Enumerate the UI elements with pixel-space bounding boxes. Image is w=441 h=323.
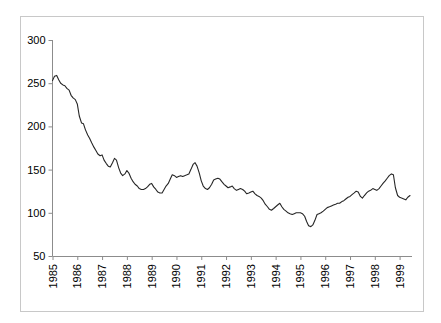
y-tick-label: 200 — [27, 120, 45, 132]
x-tick-label: 1994 — [270, 264, 282, 288]
y-tick-label: 150 — [27, 164, 45, 176]
line-chart: 50100150200250300 1985198619871988198919… — [0, 0, 441, 323]
x-tick-label: 1986 — [71, 264, 83, 288]
x-tick-label: 1991 — [195, 264, 207, 288]
x-tick-label: 1985 — [47, 264, 59, 288]
y-tick-label: 250 — [27, 77, 45, 89]
x-axis-tick-labels: 1985198619871988198919901991199219931994… — [47, 264, 406, 288]
x-tick-label: 1989 — [146, 264, 158, 288]
x-tick-label: 1992 — [220, 264, 232, 288]
x-tick-label: 1988 — [121, 264, 133, 288]
data-series-line — [53, 75, 411, 226]
y-axis-ticks — [49, 41, 53, 257]
x-tick-label: 1997 — [344, 264, 356, 288]
y-tick-label: 300 — [27, 34, 45, 46]
y-tick-label: 50 — [33, 250, 45, 262]
x-tick-label: 1987 — [96, 264, 108, 288]
axes-group — [53, 40, 413, 257]
y-axis-tick-labels: 50100150200250300 — [27, 34, 45, 262]
x-tick-label: 1993 — [245, 264, 257, 288]
x-tick-label: 1990 — [170, 264, 182, 288]
x-tick-label: 1999 — [394, 264, 406, 288]
x-tick-label: 1995 — [294, 264, 306, 288]
x-tick-label: 1998 — [369, 264, 381, 288]
x-tick-label: 1996 — [319, 264, 331, 288]
y-tick-label: 100 — [27, 207, 45, 219]
